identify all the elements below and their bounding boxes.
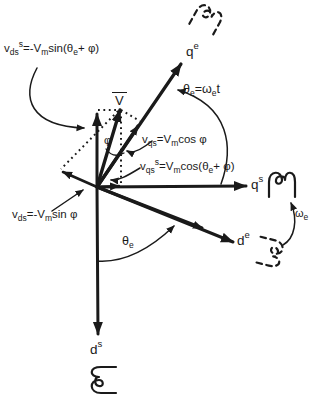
vqs-eq-sub: qs	[148, 138, 157, 148]
vds-eq-tail: sin φ	[52, 208, 77, 220]
vqs-s-eq-fn: cos(θ	[180, 160, 208, 172]
vqs-s-eq-mid: =V	[159, 160, 173, 172]
v-vector-arrow	[97, 110, 120, 187]
axis-qs-sup: s	[259, 173, 264, 184]
vds-s-eq-sub: ds	[10, 47, 19, 57]
t-sym: t	[216, 82, 219, 96]
de-winding-coil-dashed	[254, 237, 284, 268]
reference-frame-vector-diagram: vdss=-Vmsin(θe+ φ) V θe=ωet φ vqs=Vmcos …	[0, 0, 313, 399]
dotted-to-qe-axis	[121, 110, 140, 121]
v-bar-text: V	[112, 92, 127, 108]
vqs-s-eq-tail: + φ)	[213, 160, 234, 172]
phi-text: φ	[104, 134, 111, 146]
theta-e-angle-arc	[97, 226, 174, 261]
axis-label-qe: qe	[186, 41, 199, 59]
vqs-s-component-arrow	[97, 186, 119, 187]
axis-qe-letter: q	[186, 44, 194, 59]
axis-label-qs: qs	[251, 174, 263, 192]
theta-e-sym: θ	[122, 234, 129, 248]
axis-ds-letter: d	[90, 342, 98, 357]
vds-eq-sub: ds	[18, 213, 27, 223]
theta-e-sub: e	[129, 240, 134, 250]
omega-e-rotation-arrow	[283, 203, 295, 245]
axis-label-de: de	[237, 230, 250, 248]
vqs-eq-tail: cos φ	[178, 133, 207, 145]
axis-qs-letter: q	[251, 177, 259, 192]
phi-angle-label: φ	[104, 135, 111, 147]
vds-s-eq-tail: + φ)	[78, 42, 99, 54]
diagram-canvas	[0, 0, 313, 399]
vds-s-equation-label: vdss=-Vmsin(θe+ φ)	[4, 40, 99, 57]
theta-omega-equation-label: θe=ωet	[183, 83, 220, 98]
vqs-equation-label: vqs=Vmcos φ	[142, 133, 207, 148]
axis-label-ds: ds	[90, 339, 102, 357]
vds-eq-mid: =-V	[27, 208, 45, 220]
vds-s-eq-fn: sin(θ	[48, 42, 73, 54]
axis-de-letter: d	[237, 233, 245, 248]
axis-de-sup: e	[245, 229, 250, 240]
omega-e-sub: e	[304, 212, 309, 222]
ds-winding-coil	[92, 367, 116, 393]
omega-e-sym: ω	[295, 207, 304, 219]
vds-s-eq-mid: =-V	[23, 42, 41, 54]
theta-sym: θ	[183, 82, 190, 96]
vds-component-arrow	[63, 172, 97, 187]
v-vector-label: V	[112, 92, 127, 108]
vds-s-callout-arrow	[30, 68, 84, 128]
qs-winding-coil	[269, 173, 295, 197]
axis-qe-sup: e	[194, 40, 199, 51]
vqs-s-equation-label: vqss=Vmcos(θe+ φ)	[140, 158, 235, 175]
vqs-s-callout-arrow	[111, 168, 140, 180]
vqs-s-eq-sub: qs	[146, 165, 155, 175]
axis-ds-sup: s	[98, 338, 103, 349]
omega-e-label: ωe	[295, 208, 308, 222]
vqs-eq-mid: =V	[157, 133, 171, 145]
qe-winding-coil-dashed	[189, 3, 224, 37]
omega-sym: =ω	[195, 82, 212, 96]
vds-equation-label: vds=-Vmsin φ	[12, 208, 77, 223]
vds-eq-msub: m	[45, 213, 52, 223]
theta-e-angle-label: θe	[122, 235, 134, 250]
de-mid-arrowhead	[97, 187, 202, 228]
